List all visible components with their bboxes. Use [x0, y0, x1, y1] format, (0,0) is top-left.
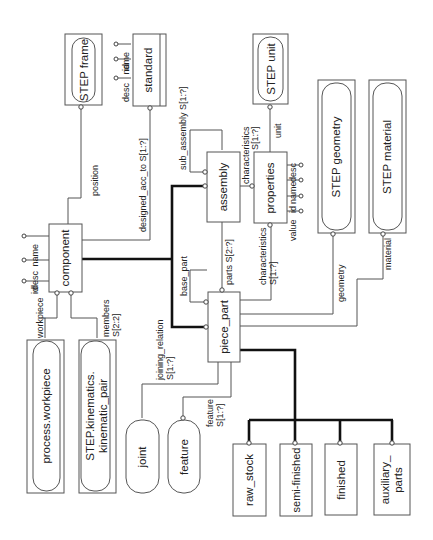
piece-characteristics-label-1: characteristics — [258, 227, 268, 285]
members-label-1: members — [101, 299, 111, 337]
component-attr-name: name — [30, 244, 40, 267]
step-frame-type[interactable]: STEP frame — [65, 34, 102, 105]
step-kinematics-label-line1: STEP.kinematics. — [84, 371, 96, 460]
assembly-sub-connector-icon — [203, 170, 207, 174]
raw-stock-connector-icon — [247, 441, 251, 445]
step-unit-type[interactable]: STEP unit — [253, 34, 288, 104]
joining-relation-label-2: S[1:?] — [165, 356, 175, 380]
properties-entity[interactable]: properties — [254, 152, 287, 223]
step-material-type[interactable]: STEP material — [369, 80, 406, 233]
standard-id-attr-icon — [114, 57, 118, 61]
finished-label: finished — [335, 460, 347, 500]
workpiece-line — [45, 291, 57, 338]
step-frame-connector-icon — [79, 105, 83, 109]
geometry-label: geometry — [336, 264, 346, 302]
properties-value-attr-icon — [299, 209, 303, 213]
properties-id-attr-icon — [299, 194, 303, 198]
step-material-label: STEP material — [381, 120, 393, 194]
properties-name-attr-icon — [299, 178, 303, 182]
standard-name-attr-icon — [114, 42, 118, 46]
semi-finished-label: semi-finished — [290, 448, 302, 513]
raw-stock-label: raw_stock — [243, 454, 255, 506]
auxiliary-parts-connector-icon — [390, 441, 394, 445]
auxiliary-parts-label-line1: auxiliary_ — [379, 455, 391, 504]
component-label: component — [59, 229, 71, 287]
standard-desc-attr-icon — [114, 76, 118, 80]
properties-piece-connector-icon — [268, 223, 272, 227]
component-entity[interactable]: component — [49, 224, 82, 292]
assembly-super-connector-icon — [203, 184, 207, 188]
semi-finished-entity[interactable]: semi-finished — [280, 444, 312, 516]
workpiece-label: workpiece — [35, 297, 45, 339]
piece-part-label: piece_part — [218, 299, 230, 354]
assembly-label: assembly — [217, 162, 229, 211]
properties-desc-attr-icon — [299, 163, 303, 167]
step-geometry-connector-icon — [331, 232, 335, 236]
piece-base-connector-icon — [204, 300, 208, 304]
properties-attr-name: name — [288, 181, 298, 204]
component-id-attr-icon — [22, 279, 26, 283]
feature-label: feature — [178, 439, 190, 475]
feature-entity[interactable]: feature — [168, 420, 200, 493]
geometry-line — [240, 226, 333, 314]
feature-connector-icon — [181, 416, 185, 420]
auxiliary-parts-label-line2: parts — [392, 467, 404, 493]
unit-label: unit — [273, 123, 283, 138]
members-label-2: S[2:2] — [111, 313, 121, 337]
process-workpiece-label: process.workpiece — [40, 368, 52, 463]
auxiliary-parts-entity[interactable]: auxiliary_ parts — [374, 444, 410, 515]
step-unit-connector-icon — [268, 105, 272, 109]
parts-label: parts S[2:?] — [224, 239, 234, 285]
properties-label: properties — [264, 162, 276, 213]
properties-attr-value: value — [288, 219, 298, 241]
raw-stock-entity[interactable]: raw_stock — [233, 444, 266, 516]
standard-label: standard — [142, 48, 154, 93]
step-unit-label: STEP unit — [265, 42, 277, 94]
assembly-entity[interactable]: assembly — [207, 152, 240, 222]
base-part-label: base_part — [179, 255, 189, 296]
assembly-characteristics-label-2: S[1:?] — [250, 126, 260, 150]
designed-acc-to-label: designed_acc_to S[1:?] — [138, 138, 148, 232]
feature-rel-label-2: S[1:?] — [215, 403, 225, 427]
express-g-diagram: STEP frame standard STEP unit STEP geome… — [0, 0, 433, 540]
material-label: material — [383, 238, 393, 270]
component-name-attr-icon — [22, 234, 26, 238]
semi-finished-connector-icon — [293, 441, 297, 445]
process-workpiece-type[interactable]: process.workpiece — [27, 340, 64, 493]
position-line — [68, 108, 81, 230]
joining-relation-label-1: joining_relation — [155, 319, 165, 381]
piece-super-connector-icon — [204, 325, 208, 329]
standard-attr-name: name — [121, 52, 131, 75]
component-desc-attr-icon — [22, 258, 26, 262]
standard-attr-desc: desc — [121, 83, 131, 103]
feature-rel-label-1: feature — [205, 399, 215, 427]
step-kinematics-type[interactable]: STEP.kinematics. kinematic_pair — [79, 340, 116, 493]
step-frame-label: STEP frame — [78, 39, 90, 101]
position-label: position — [90, 165, 100, 196]
component-subtypes-branch — [172, 186, 207, 327]
component-workpiece-connector-icon — [55, 291, 59, 295]
sub-assembly-label: sub_assembly S[1:?] — [178, 86, 188, 170]
standard-entity[interactable]: standard — [133, 34, 166, 106]
standard-connector-icon — [148, 106, 152, 110]
component-members-connector-icon — [69, 291, 73, 295]
piece-parts-connector-icon — [220, 288, 224, 292]
component-attr-desc: desc — [30, 271, 40, 291]
joint-label: joint — [136, 446, 148, 469]
step-kinematics-label-line2: kinematic_pair — [97, 379, 109, 453]
step-material-connector-icon — [381, 232, 385, 236]
joint-entity[interactable]: joint — [126, 420, 159, 493]
finished-connector-icon — [338, 441, 342, 445]
piece-characteristics-label-2: S[1:?] — [268, 261, 278, 285]
members-line — [71, 291, 97, 338]
finished-entity[interactable]: finished — [325, 444, 357, 515]
piece-part-entity[interactable]: piece_part — [208, 292, 240, 362]
properties-attr-id: id — [288, 206, 298, 213]
piece-part-subtype-line — [240, 350, 295, 418]
base-part-line — [190, 270, 207, 302]
step-geometry-type[interactable]: STEP geometry — [318, 80, 355, 233]
properties-attr-desc: desc — [288, 162, 298, 182]
step-geometry-label: STEP geometry — [330, 116, 342, 197]
